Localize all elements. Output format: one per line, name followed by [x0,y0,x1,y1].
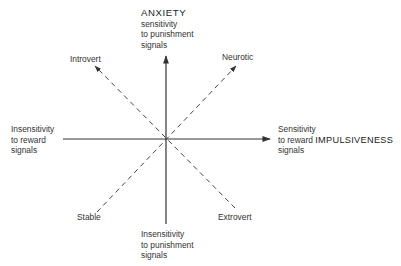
left-label-line3: signals [11,145,54,156]
bottom-axis-label: Insensitivity to punishment signals [141,229,194,261]
top-label-line1: sensitivity [141,19,194,30]
extrovert-label: Extrovert [218,212,252,223]
bottom-label-line3: signals [141,250,194,261]
stable-label: Stable [77,212,101,223]
left-label-line1: Insensitivity [11,124,54,135]
anxiety-title: ANXIETY [141,8,194,19]
top-label-line3: signals [141,40,194,51]
right-label-line1: Sensitivity [278,124,393,135]
top-axis-label: ANXIETY sensitivity to punishment signal… [141,8,194,50]
right-label-line2: to reward [278,135,313,145]
top-label-line2: to punishment [141,29,194,40]
extrovert-introvert-diagonal [95,66,235,208]
left-axis-label: Insensitivity to reward signals [11,124,54,156]
impulsiveness-title: IMPULSIVENESS [315,135,393,145]
right-label-line3: signals [278,145,393,156]
introvert-label: Introvert [70,54,101,65]
right-axis-label: Sensitivity to reward IMPULSIVENESS sign… [278,124,393,156]
left-label-line2: to reward [11,135,54,146]
bottom-label-line2: to punishment [141,240,194,251]
bottom-label-line1: Insensitivity [141,229,194,240]
neurotic-label: Neurotic [222,52,253,63]
